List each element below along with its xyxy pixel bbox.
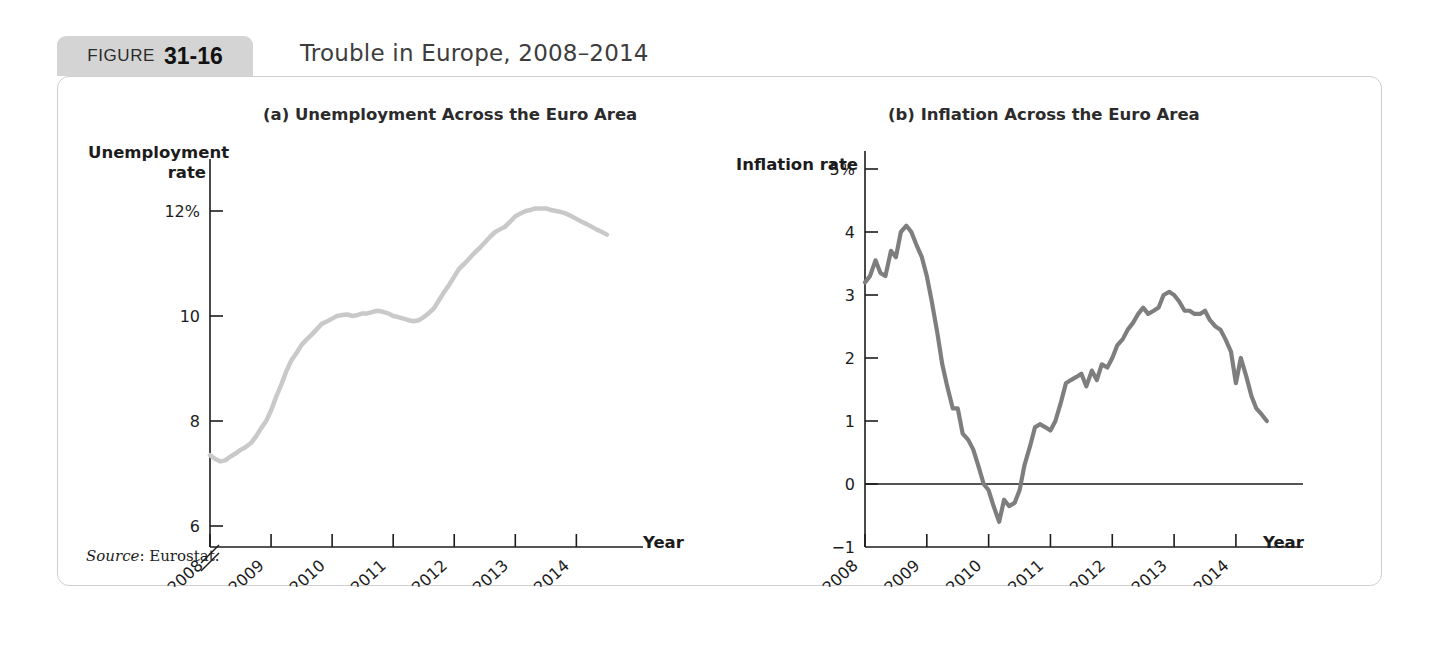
panel-b-x-tick: 2012: [1066, 556, 1109, 587]
figure-title: Trouble in Europe, 2008–2014: [300, 40, 649, 66]
panel-b-x-tick: 2010: [942, 556, 985, 587]
panel-b-y-tick: 5%: [830, 160, 855, 179]
panel-a-x-tick: 2013: [469, 556, 512, 587]
figure-container: FIGURE 31-16 Trouble in Europe, 2008–201…: [0, 0, 1430, 656]
panel-a-chart: 681012%2008200920102011201220132014: [58, 77, 683, 587]
source-label: Source: [86, 547, 139, 565]
inflation-line: [865, 226, 1267, 522]
figure-card: (a) Unemployment Across the Euro Area (b…: [57, 76, 1382, 586]
panel-a-y-tick: 8: [190, 412, 200, 431]
panel-a-x-tick: 2014: [530, 556, 573, 587]
panel-b-y-tick: 0: [845, 475, 855, 494]
figure-badge-number: 31-16: [164, 43, 223, 70]
source-note: Source: Eurostat.: [86, 547, 220, 565]
panel-b-x-tick: 2011: [1004, 556, 1047, 587]
panel-b-y-tick: 4: [845, 223, 855, 242]
panel-a-x-tick: 2012: [408, 556, 451, 587]
figure-badge: FIGURE 31-16: [57, 36, 253, 76]
panel-b-x-tick: 2013: [1128, 556, 1171, 587]
panel-b-x-tick: 2008: [819, 556, 862, 587]
panel-a-y-tick: 12%: [164, 202, 200, 221]
panel-a-y-tick: 10: [180, 307, 200, 326]
figure-badge-word: FIGURE: [87, 46, 155, 66]
panel-b-y-tick: 3: [845, 286, 855, 305]
unemployment-line: [210, 208, 607, 461]
panel-a-x-tick: 2009: [225, 556, 268, 587]
panel-b-x-tick: 2014: [1190, 556, 1233, 587]
panel-b-x-tick: 2009: [881, 556, 924, 587]
panel-a-x-tick: 2011: [347, 556, 390, 587]
panel-a-x-tick: 2010: [286, 556, 329, 587]
source-value: : Eurostat.: [139, 547, 219, 565]
panel-b-y-tick: 1: [845, 412, 855, 431]
panel-b-chart: −1012345%2008200920102011201220132014: [683, 77, 1383, 587]
panel-b-y-tick: −1: [831, 538, 855, 557]
panel-b-y-tick: 2: [845, 349, 855, 368]
panel-a-y-tick: 6: [190, 517, 200, 536]
